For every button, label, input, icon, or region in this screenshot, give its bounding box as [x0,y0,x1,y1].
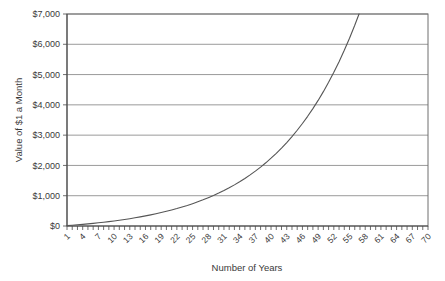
y-tick-label: $3,000 [32,130,60,140]
y-axis-title: Value of $1 a Month [13,78,24,162]
x-axis-title: Number of Years [212,262,283,273]
y-tick-label: $2,000 [32,161,60,171]
y-tick-label: $0 [50,221,60,231]
y-tick-label: $6,000 [32,39,60,49]
growth-line-chart: $0$1,000$2,000$3,000$4,000$5,000$6,000$7… [0,0,445,281]
chart-container: $0$1,000$2,000$3,000$4,000$5,000$6,000$7… [0,0,445,281]
y-tick-label: $4,000 [32,100,60,110]
y-tick-label: $5,000 [32,70,60,80]
y-tick-label: $1,000 [32,191,60,201]
y-tick-label: $7,000 [32,9,60,19]
